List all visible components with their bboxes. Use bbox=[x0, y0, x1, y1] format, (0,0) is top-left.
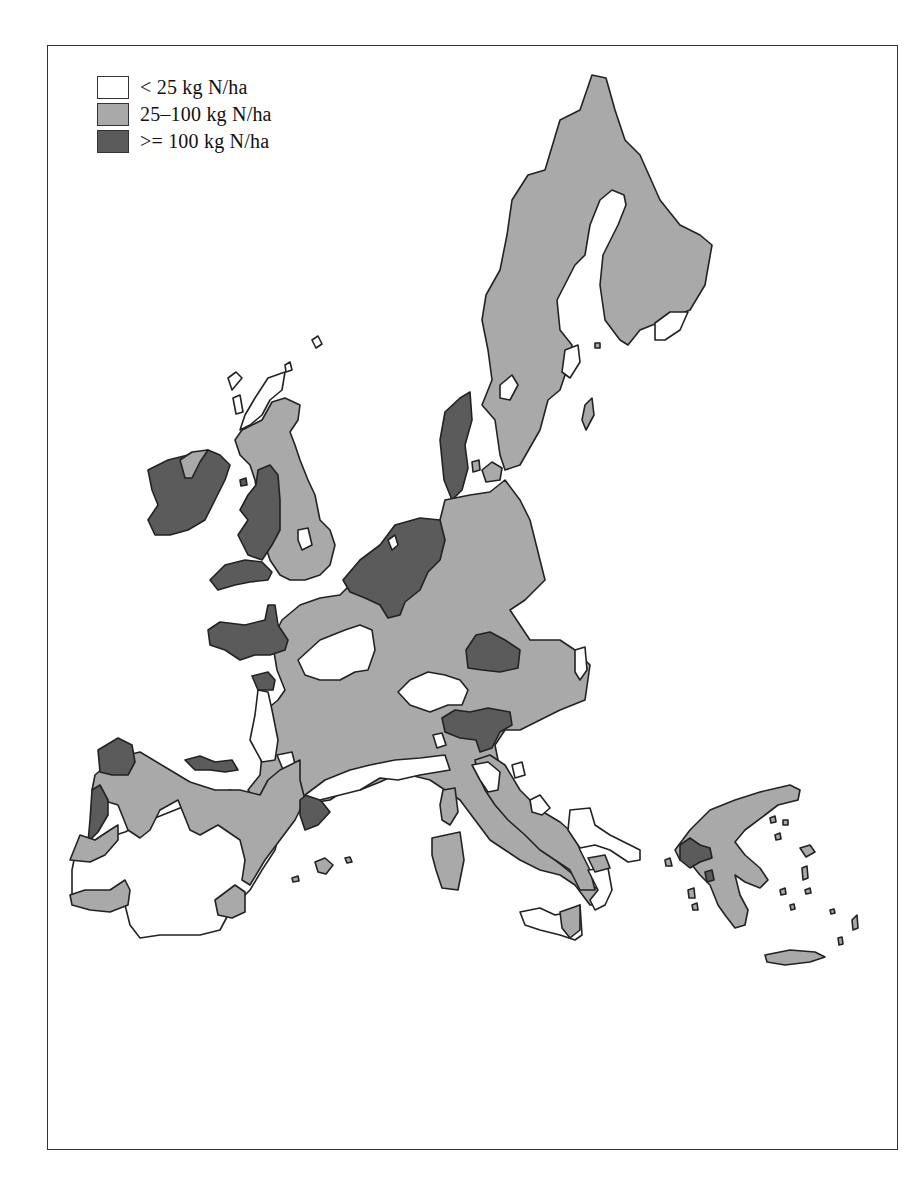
island-isle-of-man bbox=[240, 478, 247, 486]
island-kefalonia bbox=[688, 888, 695, 898]
island-zakynthos bbox=[692, 903, 698, 910]
region-southwest-england-high bbox=[210, 560, 272, 590]
region-france-west-high bbox=[252, 672, 275, 690]
island-shetland bbox=[312, 336, 322, 348]
island-crete bbox=[765, 950, 825, 965]
island-hebrides-1 bbox=[228, 372, 242, 390]
region-italy-lazio-low bbox=[530, 795, 550, 815]
region-italy-marche-low bbox=[512, 762, 525, 778]
island-aegean-5 bbox=[805, 888, 811, 894]
island-aegean-7 bbox=[830, 909, 835, 914]
island-lesbos bbox=[800, 845, 815, 857]
island-zealand bbox=[482, 462, 502, 482]
island-aegean-4 bbox=[780, 888, 786, 895]
island-mallorca bbox=[315, 858, 333, 874]
region-brittany bbox=[208, 605, 288, 660]
region-sweden-east-low bbox=[562, 345, 580, 378]
island-aegean-1 bbox=[770, 816, 776, 823]
region-galicia-high bbox=[98, 738, 135, 775]
island-hebrides-2 bbox=[233, 395, 243, 414]
region-sweden bbox=[482, 75, 712, 470]
island-sardinia bbox=[432, 832, 464, 890]
island-chios bbox=[802, 866, 808, 880]
region-denmark bbox=[440, 392, 472, 500]
island-corfu bbox=[665, 858, 672, 866]
island-rhodes bbox=[852, 915, 858, 930]
island-gotland bbox=[582, 398, 594, 430]
island-corsica bbox=[440, 788, 458, 825]
region-greece-small-high bbox=[705, 870, 714, 882]
island-karpathos bbox=[838, 937, 843, 945]
island-aegean-2 bbox=[783, 820, 788, 825]
island-menorca bbox=[345, 857, 352, 863]
island-ibiza bbox=[292, 876, 299, 882]
region-basque-high bbox=[185, 756, 238, 772]
region-france-southwest-low bbox=[250, 690, 278, 762]
island-aegean-3 bbox=[775, 833, 781, 840]
island-aland bbox=[595, 343, 600, 348]
island-orkney bbox=[285, 362, 292, 372]
europe-map bbox=[0, 0, 919, 1192]
island-aegean-6 bbox=[790, 904, 795, 910]
island-funen bbox=[472, 460, 480, 472]
